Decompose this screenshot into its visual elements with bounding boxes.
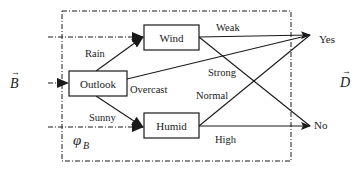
output-vector-symbol: D [339,75,350,90]
leaf-no-label: No [314,119,328,131]
phi-subscript: B [83,140,89,151]
vector-arrow-icon: → [342,66,351,76]
node-wind-label: Wind [160,32,184,44]
edge-label-weak: Weak [216,22,240,33]
node-humid-label: Humid [156,120,187,132]
edge-label-rain: Rain [85,48,106,59]
phi-symbol: φ [73,132,81,148]
edge-label-high: High [215,134,237,145]
mapping-label-phi-b: φ B [73,132,89,151]
output-vector-d: D → [339,66,351,90]
edge-label-overcast: Overcast [130,84,167,95]
edge-label-strong: Strong [208,67,237,78]
input-vector-b: B → [10,67,20,91]
node-outlook: Outlook [69,71,127,96]
edge-label-sunny: Sunny [89,112,117,123]
edge-label-normal: Normal [196,90,228,101]
edges [96,35,310,127]
node-humid: Humid [144,113,199,138]
decision-tree-diagram: Outlook Wind Humid Yes No Rain Overcast … [0,0,361,170]
leaf-yes-label: Yes [319,33,335,45]
edge-weak [199,35,310,37]
node-wind: Wind [144,25,199,50]
node-outlook-label: Outlook [80,78,117,90]
vector-arrow-icon: → [11,67,20,77]
input-vector-symbol: B [10,76,19,91]
